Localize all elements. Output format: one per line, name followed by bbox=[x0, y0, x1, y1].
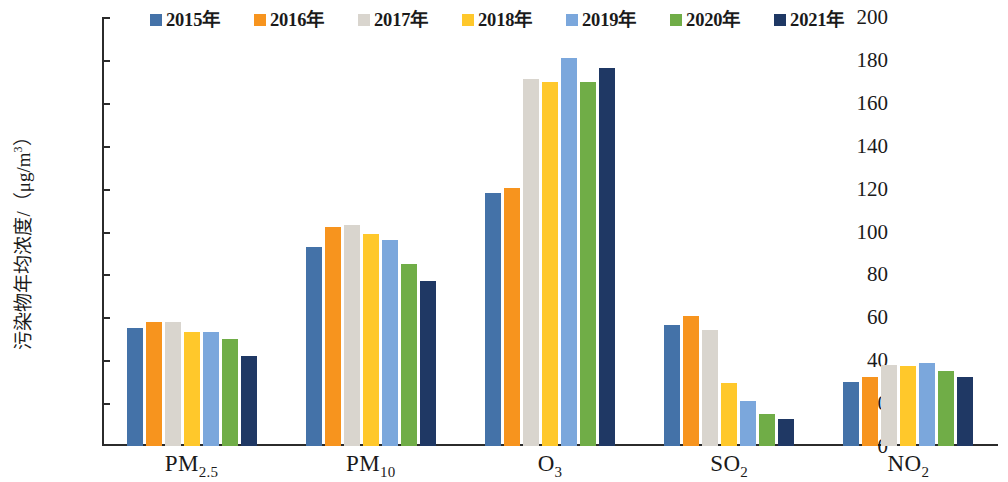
bar[interactable] bbox=[344, 225, 360, 446]
bar[interactable] bbox=[382, 240, 398, 446]
bar[interactable] bbox=[542, 82, 558, 446]
bar[interactable] bbox=[485, 193, 501, 446]
x-axis-label: PM10 bbox=[281, 452, 460, 480]
x-axis-label: PM2.5 bbox=[102, 452, 281, 480]
bar-group bbox=[819, 17, 998, 446]
bar-chart: 2015年2016年2017年2018年2019年2020年2021年 污染物年… bbox=[0, 0, 1008, 482]
bar-groups bbox=[102, 17, 998, 446]
bar-group bbox=[640, 17, 819, 446]
bar[interactable] bbox=[561, 58, 577, 446]
bar[interactable] bbox=[306, 247, 322, 446]
bar[interactable] bbox=[325, 227, 341, 446]
bar[interactable] bbox=[721, 383, 737, 446]
bar-group bbox=[102, 17, 281, 446]
bar[interactable] bbox=[401, 264, 417, 446]
bar[interactable] bbox=[938, 371, 954, 446]
bar[interactable] bbox=[862, 377, 878, 446]
bar[interactable] bbox=[900, 366, 916, 446]
bar[interactable] bbox=[843, 382, 859, 446]
bar[interactable] bbox=[599, 68, 615, 446]
bar[interactable] bbox=[523, 79, 539, 446]
y-axis-title: 污染物年均浓度/（μg/m3） bbox=[8, 19, 35, 459]
bar[interactable] bbox=[504, 188, 520, 446]
bar-group bbox=[460, 17, 639, 446]
bar[interactable] bbox=[881, 365, 897, 447]
bar[interactable] bbox=[957, 377, 973, 446]
bar[interactable] bbox=[759, 414, 775, 446]
x-axis-label: O3 bbox=[460, 452, 639, 480]
bar[interactable] bbox=[241, 356, 257, 446]
x-axis-labels: PM2.5PM10O3SO2NO2 bbox=[102, 452, 998, 480]
bar[interactable] bbox=[580, 82, 596, 446]
bar[interactable] bbox=[702, 330, 718, 446]
bar[interactable] bbox=[165, 322, 181, 446]
bar[interactable] bbox=[184, 332, 200, 446]
x-axis-label: SO2 bbox=[640, 452, 819, 480]
bar[interactable] bbox=[683, 316, 699, 446]
bar[interactable] bbox=[919, 363, 935, 446]
bar[interactable] bbox=[420, 281, 436, 446]
x-axis-label: NO2 bbox=[819, 452, 998, 480]
bar[interactable] bbox=[127, 328, 143, 446]
bar[interactable] bbox=[146, 322, 162, 446]
bar[interactable] bbox=[664, 325, 680, 446]
bar-group bbox=[281, 17, 460, 446]
bar[interactable] bbox=[363, 234, 379, 446]
bar[interactable] bbox=[740, 401, 756, 446]
bar[interactable] bbox=[222, 339, 238, 446]
bar[interactable] bbox=[778, 419, 794, 446]
bar[interactable] bbox=[203, 332, 219, 446]
